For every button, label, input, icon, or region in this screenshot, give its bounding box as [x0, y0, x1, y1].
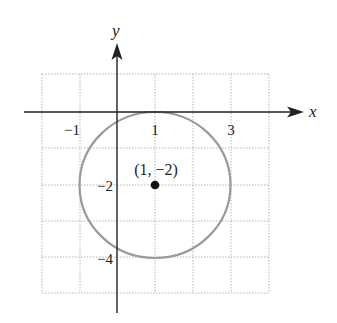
coordinate-plane: x y −1 1 3 −2 −4 (1, −2) — [0, 0, 337, 323]
y-tick-label: −4 — [97, 251, 113, 267]
center-point — [151, 181, 160, 190]
y-tick-label: −2 — [97, 178, 113, 194]
y-axis-label: y — [110, 21, 120, 40]
x-tick-label: 3 — [227, 122, 235, 138]
x-tick-label: 1 — [151, 122, 159, 138]
center-point-label: (1, −2) — [134, 161, 178, 179]
x-tick-label: −1 — [64, 122, 80, 138]
x-axis-label: x — [308, 102, 317, 121]
